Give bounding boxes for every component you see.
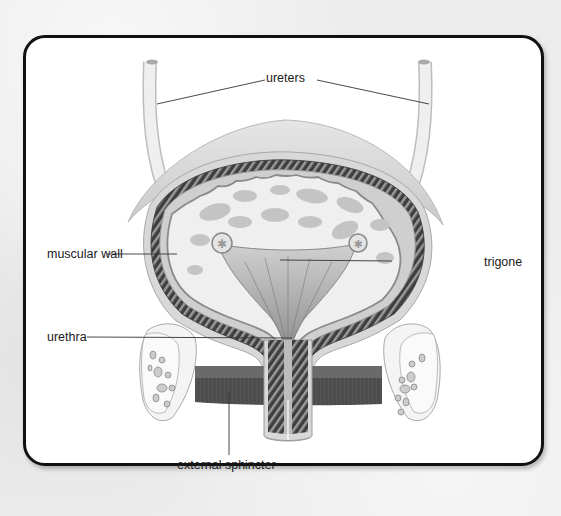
svg-text:✱: ✱ bbox=[353, 238, 362, 251]
ureters-leader-right bbox=[317, 80, 429, 104]
left-ureteral-orifice: ✱ bbox=[212, 233, 232, 253]
ureters-leader-left bbox=[157, 80, 265, 104]
label-external-sphincter: external sphincter bbox=[177, 459, 276, 472]
label-trigone: trigone bbox=[484, 256, 522, 269]
right-pubic-bone bbox=[384, 324, 440, 421]
right-ureteral-orifice: ✱ bbox=[349, 234, 367, 252]
svg-text:✱: ✱ bbox=[217, 237, 227, 251]
urethra-tube bbox=[264, 340, 312, 441]
label-muscular-wall: muscular wall bbox=[47, 248, 123, 261]
left-pubic-bone bbox=[140, 324, 197, 421]
label-ureters: ureters bbox=[266, 72, 305, 85]
label-urethra: urethra bbox=[47, 331, 87, 344]
